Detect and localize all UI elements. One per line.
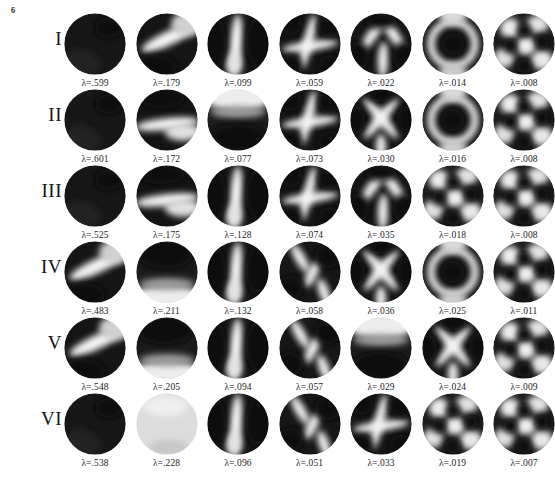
eigenmode-disc-disc-multi-lobe (491, 88, 555, 152)
eigenmode-disc-disc-light-top (205, 88, 271, 152)
eigenmode-disc-disc-multi-lobe (491, 12, 555, 76)
eigenmode-cell: λ=.132 (205, 240, 271, 316)
eigenmode-disc-disc-y-junction (348, 12, 414, 76)
eigenmode-disc-disc-y-junction (348, 164, 414, 228)
eigenvalue-label: λ=.030 (348, 154, 414, 164)
eigenmode-cell: λ=.094 (205, 316, 271, 392)
eigenmode-disc-disc-cross (348, 392, 414, 456)
row-label-iii: III (22, 180, 62, 202)
eigenmode-cell: λ=.074 (277, 164, 343, 240)
eigenmode-cell: λ=.205 (134, 316, 200, 392)
eigenmode-disc-disc-vertical-band (205, 392, 271, 456)
eigenvalue-label: λ=.018 (420, 230, 486, 240)
eigenvalue-label: λ=.016 (420, 154, 486, 164)
eigenvalue-label: λ=.059 (277, 78, 343, 88)
eigenvalue-label: λ=.128 (205, 230, 271, 240)
eigenmode-disc-disc-ring-lobes (420, 240, 486, 304)
eigenmode-row: VIλ=.538λ=.228λ=.096λ=.051λ=.033λ=.019λ=… (0, 392, 555, 468)
eigenmode-disc-disc-vertical-band (205, 164, 271, 228)
eigenmode-disc-disc-multi-lobe (491, 316, 555, 380)
eigenvalue-label: λ=.483 (62, 306, 128, 316)
eigenmode-cell: λ=.077 (205, 88, 271, 164)
eigenvalue-label: λ=.009 (491, 382, 555, 392)
eigenmode-row: IIλ=.601λ=.172λ=.077λ=.073λ=.030λ=.016λ=… (0, 88, 555, 164)
eigenvalue-label: λ=.077 (205, 154, 271, 164)
eigenmode-disc-disc-ring-lobes (420, 12, 486, 76)
eigenmode-cell: λ=.030 (348, 88, 414, 164)
eigenvalue-label: λ=.599 (62, 78, 128, 88)
eigenvalue-label: λ=.172 (134, 154, 200, 164)
eigenmode-cell: λ=.211 (134, 240, 200, 316)
eigenmode-cell: λ=.008 (491, 88, 555, 164)
row-label-v: V (22, 332, 62, 354)
eigenvalue-label: λ=.022 (348, 78, 414, 88)
eigenvalue-label: λ=.548 (62, 382, 128, 392)
eigenmode-disc-disc-multi-lobe (491, 164, 555, 228)
eigenmode-cell: λ=.057 (277, 316, 343, 392)
eigenmode-row: Vλ=.548λ=.205λ=.094λ=.057λ=.029λ=.024λ=.… (0, 316, 555, 392)
eigenmode-grid: Iλ=.599λ=.179λ=.099λ=.059λ=.022λ=.014λ=.… (0, 12, 555, 468)
eigenvalue-label: λ=.094 (205, 382, 271, 392)
eigenvalue-label: λ=.096 (205, 458, 271, 468)
eigenmode-disc-disc-light-bottom (134, 240, 200, 304)
eigenmode-disc-disc-horizontal-band (134, 164, 200, 228)
eigenmode-cell: λ=.128 (205, 164, 271, 240)
eigenvalue-label: λ=.007 (491, 458, 555, 468)
eigenvalue-label: λ=.601 (62, 154, 128, 164)
eigenmode-disc-disc-light-bottom (134, 316, 200, 380)
eigenmode-cell: λ=.483 (62, 240, 128, 316)
eigenmode-disc-disc-x-junction (348, 88, 414, 152)
eigenmode-disc-disc-uniform-dark (62, 88, 128, 152)
eigenmode-disc-disc-diagonal-band (134, 12, 200, 76)
eigenmode-cell: λ=.525 (62, 164, 128, 240)
eigenvalue-label: λ=.074 (277, 230, 343, 240)
eigenmode-cell: λ=.008 (491, 12, 555, 88)
eigenmode-cell: λ=.029 (348, 316, 414, 392)
eigenvalue-label: λ=.179 (134, 78, 200, 88)
eigenmode-disc-disc-diagonal-band (62, 316, 128, 380)
eigenmode-cell: λ=.073 (277, 88, 343, 164)
eigenmode-disc-disc-s-curve (277, 240, 343, 304)
eigenvalue-label: λ=.051 (277, 458, 343, 468)
eigenvalue-label: λ=.033 (348, 458, 414, 468)
eigenvalue-label: λ=.538 (62, 458, 128, 468)
eigenmode-cell: λ=.035 (348, 164, 414, 240)
eigenmode-disc-disc-s-curve (277, 392, 343, 456)
eigenmode-disc-disc-cross (277, 164, 343, 228)
eigenmode-cell: λ=.601 (62, 88, 128, 164)
eigenmode-disc-disc-diagonal-band (62, 240, 128, 304)
eigenvalue-label: λ=.099 (205, 78, 271, 88)
eigenmode-row: IIIλ=.525λ=.175λ=.128λ=.074λ=.035λ=.018λ… (0, 164, 555, 240)
eigenvalue-label: λ=.008 (491, 230, 555, 240)
eigenvalue-label: λ=.211 (134, 306, 200, 316)
eigenvalue-label: λ=.132 (205, 306, 271, 316)
eigenmode-cell: λ=.172 (134, 88, 200, 164)
eigenvalue-label: λ=.057 (277, 382, 343, 392)
row-label-iv: IV (22, 256, 62, 278)
eigenmode-cell: λ=.179 (134, 12, 200, 88)
eigenvalue-label: λ=.019 (420, 458, 486, 468)
row-label-ii: II (22, 104, 62, 126)
eigenmode-cell: λ=.007 (491, 392, 555, 468)
eigenmode-cell: λ=.051 (277, 392, 343, 468)
eigenmode-disc-disc-ring-lobes (420, 88, 486, 152)
eigenmode-cell: λ=.228 (134, 392, 200, 468)
eigenmode-disc-disc-cross (277, 12, 343, 76)
eigenmode-disc-disc-light-top (348, 316, 414, 380)
eigenmode-cell: λ=.033 (348, 392, 414, 468)
eigenmode-cell: λ=.022 (348, 12, 414, 88)
eigenmode-disc-disc-vertical-band (205, 240, 271, 304)
eigenmode-cell: λ=.548 (62, 316, 128, 392)
eigenmode-cell: λ=.014 (420, 12, 486, 88)
eigenmode-cell: λ=.018 (420, 164, 486, 240)
row-label-vi: VI (22, 408, 62, 430)
eigenmode-cell: λ=.036 (348, 240, 414, 316)
eigenvalue-label: λ=.008 (491, 154, 555, 164)
eigenvalue-label: λ=.024 (420, 382, 486, 392)
eigenvalue-label: λ=.073 (277, 154, 343, 164)
eigenmode-disc-disc-uniform-dark (62, 12, 128, 76)
eigenvalue-label: λ=.025 (420, 306, 486, 316)
eigenmode-disc-disc-uniform-light (134, 392, 200, 456)
eigenvalue-label: λ=.036 (348, 306, 414, 316)
eigenvalue-label: λ=.008 (491, 78, 555, 88)
